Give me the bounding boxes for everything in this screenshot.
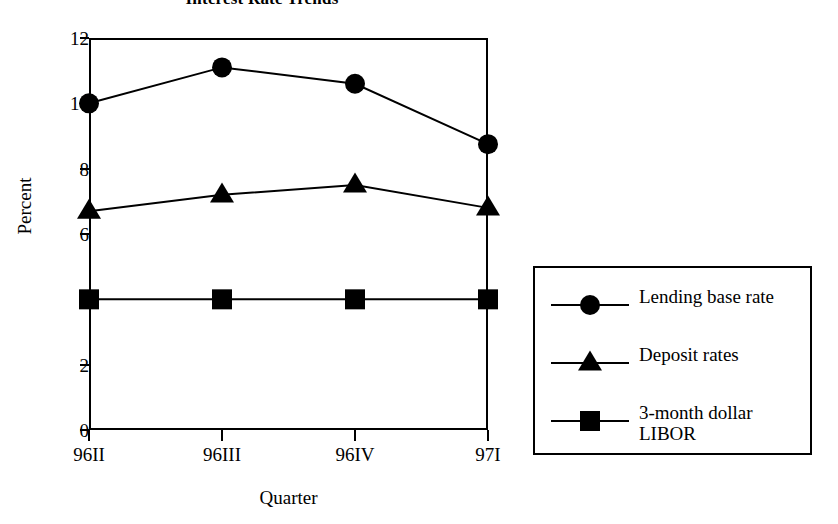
y-tick-mark xyxy=(80,233,89,235)
x-tick-label: 96II xyxy=(29,444,149,466)
x-tick-mark xyxy=(354,430,356,441)
x-tick-mark xyxy=(221,430,223,441)
x-axis-tick-marks xyxy=(89,430,488,442)
series-line xyxy=(89,185,488,211)
series-triangle xyxy=(77,173,500,219)
series-square xyxy=(79,289,498,309)
legend-label: Deposit rates xyxy=(639,344,739,365)
x-tick-mark xyxy=(88,430,90,441)
legend-item[interactable]: 3-month dollar LIBOR xyxy=(551,406,801,452)
x-tick-label: 96III xyxy=(162,444,282,466)
data-point-triangle xyxy=(210,182,234,202)
legend-label: 3-month dollar LIBOR xyxy=(639,402,752,444)
legend-label: Lending base rate xyxy=(639,286,774,307)
y-tick-mark xyxy=(80,168,89,170)
data-point-square xyxy=(478,289,498,309)
y-axis-tick-labels: 024681012 xyxy=(0,38,89,430)
y-tick-mark xyxy=(80,364,89,366)
legend-item[interactable]: Deposit rates xyxy=(551,348,801,394)
x-axis-tick-labels: 96II96III96IV97I xyxy=(89,444,488,470)
y-tick-mark xyxy=(80,37,89,39)
chart-page: Interest Rate Trends Percent 024681012 9… xyxy=(0,0,838,524)
data-point-circle xyxy=(345,74,365,94)
data-point-circle xyxy=(478,134,498,154)
plot-area xyxy=(89,38,488,430)
x-tick-mark xyxy=(487,430,489,441)
chart-title: Interest Rate Trends xyxy=(0,0,524,9)
x-axis-label: Quarter xyxy=(89,487,488,509)
data-point-square xyxy=(79,289,99,309)
data-point-circle xyxy=(79,93,99,113)
legend-marker-triangle xyxy=(551,348,629,378)
data-point-circle xyxy=(212,57,232,77)
legend-marker-circle xyxy=(551,290,629,320)
legend-marker-square xyxy=(551,406,629,436)
data-point-square xyxy=(345,289,365,309)
data-point-square xyxy=(212,289,232,309)
legend-item[interactable]: Lending base rate xyxy=(551,290,801,336)
x-tick-label: 97I xyxy=(428,444,548,466)
data-point-triangle xyxy=(343,173,367,193)
series-layer xyxy=(89,38,488,430)
series-line xyxy=(89,67,488,144)
legend: Lending base rateDeposit rates3-month do… xyxy=(533,266,812,455)
x-tick-label: 96IV xyxy=(295,444,415,466)
series-circle xyxy=(79,57,498,154)
